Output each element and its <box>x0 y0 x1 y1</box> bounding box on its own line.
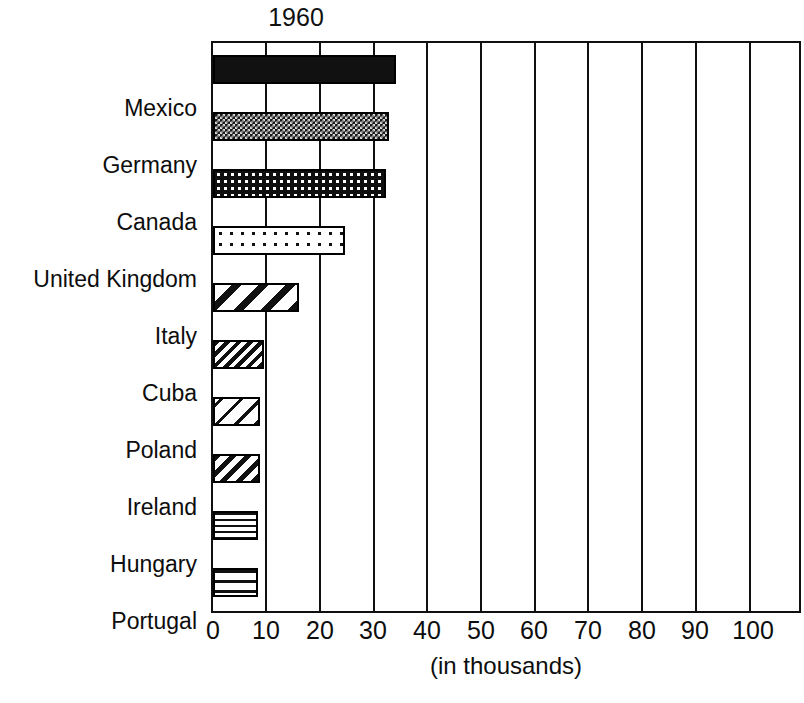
xtick-30: 30 <box>359 615 387 645</box>
x-axis-caption: (in thousands) <box>211 652 801 680</box>
bar-mexico[interactable] <box>213 55 396 84</box>
category-label-canada: Canada <box>116 210 197 235</box>
bar-germany[interactable] <box>213 112 389 141</box>
bar-hungary[interactable] <box>213 511 258 540</box>
chart-title: 1960 <box>211 2 381 32</box>
bar-chart: 1960 Mexico Germany Canada United Kingdo… <box>0 0 804 703</box>
category-label-cuba: Cuba <box>142 381 197 406</box>
bar-cuba[interactable] <box>213 340 264 369</box>
xtick-20: 20 <box>306 615 334 645</box>
xtick-0: 0 <box>206 615 220 645</box>
bar-canada[interactable] <box>213 169 386 198</box>
bars-layer <box>213 43 799 611</box>
bar-ireland[interactable] <box>213 454 260 483</box>
bar-portugal[interactable] <box>213 568 258 597</box>
x-axis-tick-labels: 0 10 20 30 40 50 60 70 80 90 100 <box>0 615 804 647</box>
bar-united-kingdom[interactable] <box>213 226 345 255</box>
category-label-hungary: Hungary <box>110 552 197 577</box>
bar-poland[interactable] <box>213 397 260 426</box>
xtick-40: 40 <box>413 615 441 645</box>
xtick-80: 80 <box>628 615 656 645</box>
bar-italy[interactable] <box>213 283 299 312</box>
category-label-united-kingdom: United Kingdom <box>33 267 197 292</box>
xtick-10: 10 <box>252 615 280 645</box>
xtick-90: 90 <box>681 615 709 645</box>
xtick-100: 100 <box>732 615 774 645</box>
category-label-germany: Germany <box>102 153 197 178</box>
xtick-50: 50 <box>467 615 495 645</box>
category-axis-labels: Mexico Germany Canada United Kingdom Ita… <box>0 41 205 613</box>
category-label-ireland: Ireland <box>127 495 197 520</box>
category-label-italy: Italy <box>155 324 197 349</box>
xtick-60: 60 <box>520 615 548 645</box>
xtick-70: 70 <box>574 615 602 645</box>
plot-area <box>211 41 801 613</box>
category-label-poland: Poland <box>125 438 197 463</box>
category-label-mexico: Mexico <box>124 96 197 121</box>
